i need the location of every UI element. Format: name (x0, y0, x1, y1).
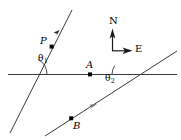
point-marker-p (50, 45, 54, 49)
angle-label-theta-1: θ1 (38, 54, 48, 64)
geometry-figure: P A B θ1 θ2 N E (0, 0, 181, 140)
compass-north-label: N (109, 16, 118, 26)
point-marker-a (88, 72, 92, 76)
line-through-b (45, 51, 177, 136)
angle-label-theta-2: θ2 (105, 74, 115, 84)
theta-1-subscript: 1 (43, 57, 47, 65)
point-label-a: A (86, 60, 93, 70)
point-label-p: P (40, 36, 47, 46)
figure-canvas (0, 0, 181, 140)
point-label-b: B (73, 121, 80, 131)
line-through-p (10, 10, 72, 133)
compass-east-label: E (135, 44, 142, 54)
theta-2-subscript: 2 (110, 77, 114, 85)
